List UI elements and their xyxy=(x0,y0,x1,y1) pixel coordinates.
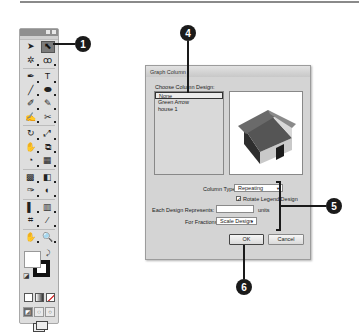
tool-row: ▌▥ xyxy=(20,201,58,215)
callout-5: 5 xyxy=(326,198,342,214)
fractions-value: Scale Design xyxy=(220,218,252,224)
eyedropper-tool-icon[interactable]: ✑ xyxy=(24,185,38,197)
rotate-legend-label: Rotate Legend Design xyxy=(243,196,298,202)
color-button[interactable] xyxy=(24,293,33,302)
chevron-down-icon: ▼ xyxy=(250,219,254,225)
design-preview xyxy=(229,91,303,175)
house-preview-icon xyxy=(230,92,302,174)
scale-tool-icon[interactable]: ⤢ xyxy=(41,128,55,140)
none-button[interactable] xyxy=(46,293,55,302)
design-item-none[interactable]: None xyxy=(155,92,223,99)
rotate-tool-icon[interactable]: ↻ xyxy=(24,128,38,140)
pencil-tool-icon[interactable]: ✎ xyxy=(41,98,55,110)
choose-design-label: Choose Column Design: xyxy=(155,84,215,90)
close-icon[interactable] xyxy=(52,30,56,34)
tool-divider xyxy=(23,199,55,200)
zoom-tool-icon[interactable]: 🔍 xyxy=(41,231,55,243)
tool-row: ▩◧ xyxy=(20,171,58,185)
each-design-label: Each Design Represents: xyxy=(152,207,214,213)
tool-row: ✑◐ xyxy=(20,184,58,198)
design-item-house-1[interactable]: house 1 xyxy=(155,106,223,113)
tool-grid: ➤⬉✲ꝏ✒T╱⬬✐✎✍✂↻⤢✋⧉◔▦▩◧✑◐▌▥⌗⁄✋🔍 xyxy=(20,40,58,244)
tool-divider xyxy=(23,125,55,126)
page-top-rule xyxy=(20,1,359,3)
draw-behind-button[interactable]: ◌ xyxy=(34,307,44,317)
gradient-button[interactable] xyxy=(35,293,44,302)
units-label: units xyxy=(258,207,270,213)
default-colors-icon[interactable]: ◪ xyxy=(23,272,30,280)
mesh-tool-icon[interactable]: ▩ xyxy=(24,171,38,183)
blend-tool-icon[interactable]: ◐ xyxy=(41,185,55,197)
lasso-tool-icon[interactable]: ꝏ xyxy=(41,54,55,66)
type-tool-icon[interactable]: T xyxy=(41,71,55,83)
design-item-green-arrow[interactable]: Green Arrow xyxy=(155,99,223,106)
line-segment-tool-icon[interactable]: ╱ xyxy=(24,84,38,96)
rotate-legend-checkbox[interactable]: ✓ xyxy=(236,196,241,201)
column-type-value: Repeating xyxy=(238,185,263,191)
selection-tool-icon[interactable]: ➤ xyxy=(24,41,38,53)
graph-column-dialog: Graph Column Choose Column Design: None … xyxy=(145,65,311,260)
design-list[interactable]: None Green Arrow house 1 xyxy=(154,91,224,175)
tool-row: ⌗⁄ xyxy=(20,214,58,228)
ok-button[interactable]: OK xyxy=(229,234,264,245)
tool-row: ✒T xyxy=(20,70,58,84)
draw-inside-button[interactable]: ○ xyxy=(45,307,55,317)
swap-fill-stroke-icon[interactable]: ⤸ xyxy=(46,249,50,257)
column-graph-tool-icon[interactable]: ▥ xyxy=(41,201,55,213)
pen-tool-icon[interactable]: ✒ xyxy=(24,71,38,83)
tool-row: ✋🔍 xyxy=(20,231,58,245)
callout-1: 1 xyxy=(75,36,91,52)
callout-5-leader xyxy=(281,205,326,207)
callout-6-leader xyxy=(243,245,245,279)
callout-4-leader xyxy=(187,41,189,93)
symbol-sprayer-tool-icon[interactable]: ▌ xyxy=(24,201,38,213)
paintbrush-tool-icon[interactable]: ✐ xyxy=(24,98,38,110)
fractions-label: For Fractions: xyxy=(185,219,219,225)
dialog-title: Graph Column xyxy=(146,66,310,77)
gradient-tool-icon[interactable]: ◧ xyxy=(41,171,55,183)
color-controls: ⤸ ◪ xyxy=(20,247,58,291)
scissors-tool-icon[interactable]: ✂ xyxy=(41,111,55,123)
tool-divider xyxy=(23,169,55,170)
tool-row: ✲ꝏ xyxy=(20,54,58,68)
draw-mode-row: ◩ ◌ ○ xyxy=(20,307,58,318)
callout-4: 4 xyxy=(180,25,196,41)
each-design-input[interactable] xyxy=(216,205,254,213)
tool-divider xyxy=(23,229,55,230)
tool-row: ✐✎ xyxy=(20,97,58,111)
tools-panel: ➤⬉✲ꝏ✒T╱⬬✐✎✍✂↻⤢✋⧉◔▦▩◧✑◐▌▥⌗⁄✋🔍 ⤸ ◪ ◩ ◌ ○ xyxy=(19,28,59,324)
cancel-button[interactable]: Cancel xyxy=(268,234,304,245)
tool-row: ╱⬬ xyxy=(20,84,58,98)
tool-row: ↻⤢ xyxy=(20,127,58,141)
shape-builder-tool-icon[interactable]: ◔ xyxy=(24,155,38,167)
artboard-tool-icon[interactable]: ⌗ xyxy=(24,215,38,227)
column-type-label: Column Type: xyxy=(203,186,237,192)
callout-1-leader xyxy=(53,43,75,45)
tool-row: ✋⧉ xyxy=(20,141,58,155)
fill-swatch[interactable] xyxy=(24,251,41,268)
collapse-icon[interactable] xyxy=(46,30,50,34)
tool-row: ✍✂ xyxy=(20,111,58,125)
free-transform-tool-icon[interactable]: ⧉ xyxy=(41,141,55,153)
warp-tool-icon[interactable]: ✋ xyxy=(24,141,38,153)
hand-tool-icon[interactable]: ✋ xyxy=(24,231,38,243)
magic-wand-tool-icon[interactable]: ✲ xyxy=(24,54,38,66)
tool-row: ◔▦ xyxy=(20,154,58,168)
screen-mode-icon[interactable] xyxy=(33,323,45,332)
tool-divider xyxy=(23,68,55,69)
color-mode-row xyxy=(20,293,58,304)
draw-normal-button[interactable]: ◩ xyxy=(23,307,33,317)
ellipse-tool-icon[interactable]: ⬬ xyxy=(41,84,55,96)
blob-brush-tool-icon[interactable]: ✍ xyxy=(24,111,38,123)
tools-panel-titlebar[interactable] xyxy=(20,29,58,36)
slice-tool-icon[interactable]: ⁄ xyxy=(41,215,55,227)
perspective-grid-tool-icon[interactable]: ▦ xyxy=(41,155,55,167)
fractions-select[interactable]: Scale Design ▼ xyxy=(216,217,257,225)
callout-6: 6 xyxy=(236,279,252,295)
